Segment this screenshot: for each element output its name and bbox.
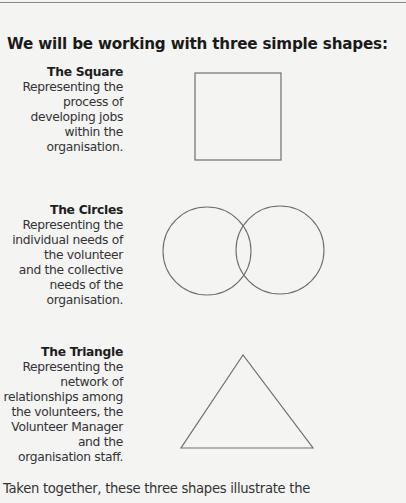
footer-text: Taken together, these three shapes illus… bbox=[3, 481, 310, 496]
overlapping-circles-icon bbox=[163, 206, 324, 295]
circle-left-icon bbox=[163, 207, 251, 295]
shapes-illustration bbox=[0, 0, 406, 503]
square-icon bbox=[195, 73, 281, 160]
triangle-icon bbox=[181, 355, 313, 448]
circle-right-icon bbox=[236, 206, 324, 294]
